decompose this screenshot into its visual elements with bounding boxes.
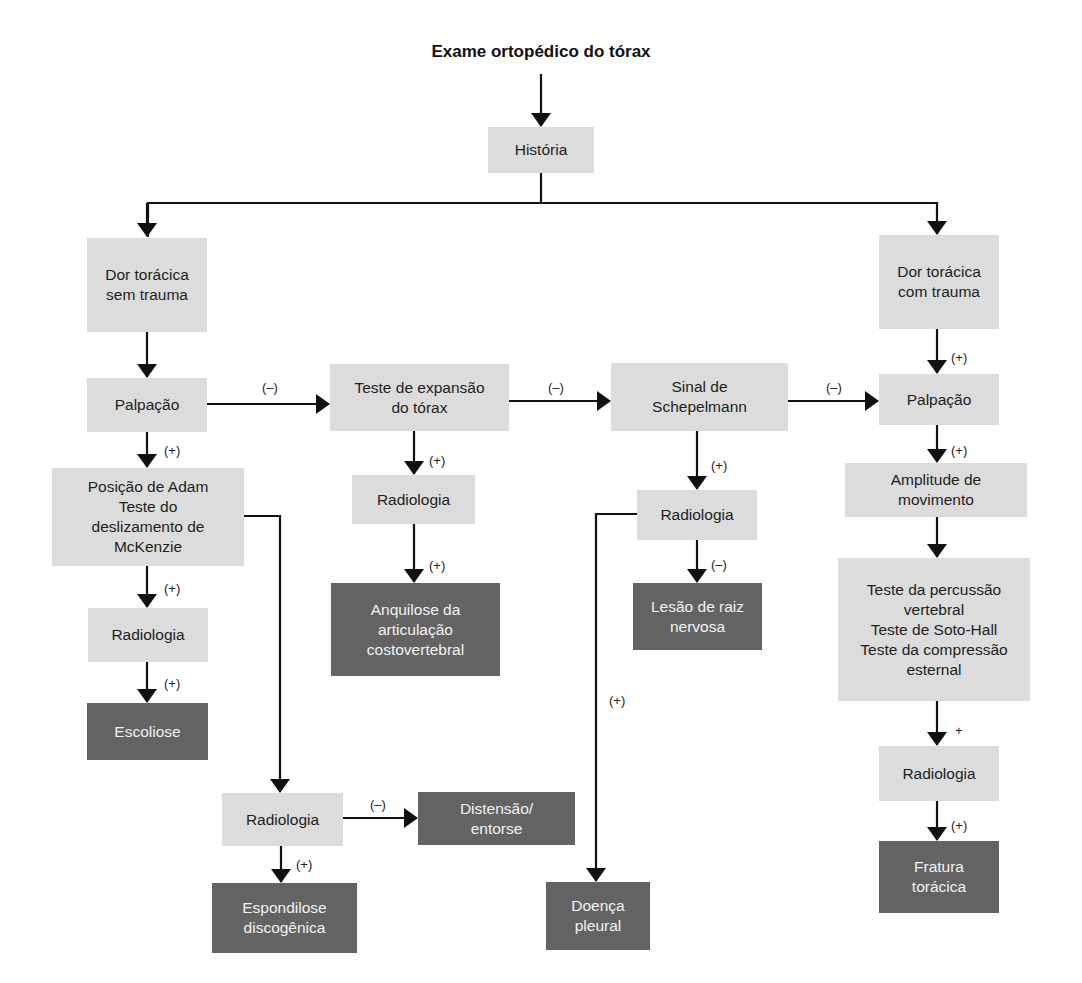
edge-label-rad-fratura: (+) <box>951 818 967 833</box>
node-palpacao-left: Palpação <box>87 378 207 432</box>
node-distensao: Distensão/ entorse <box>418 792 575 845</box>
node-radiologia-right: Radiologia <box>879 746 999 801</box>
edge-label-palp-adam: (+) <box>164 443 180 458</box>
node-radiologia-left1: Radiologia <box>88 608 208 662</box>
node-fratura: Fratura torácica <box>879 841 999 913</box>
node-radiologia-center2: Radiologia <box>637 490 757 540</box>
edge-label-palp-expansao: (–) <box>262 380 278 395</box>
node-dor-sem-trauma: Dor torácica sem trauma <box>87 238 207 332</box>
node-teste-expansao: Teste de expansão do tórax <box>330 364 509 431</box>
node-radiologia-center1: Radiologia <box>352 475 475 524</box>
node-adam-mckenzie: Posição de Adam Teste do deslizamento de… <box>52 468 244 566</box>
edge-label-schep-rad: (+) <box>711 458 727 473</box>
node-schepelmann: Sinal de Schepelmann <box>611 363 788 431</box>
edge-label-palp-amplitude: (+) <box>951 443 967 458</box>
edge-label-schep-palp: (–) <box>826 380 842 395</box>
node-palpacao-right: Palpação <box>879 374 999 425</box>
edge-label-adam-rad: (+) <box>164 581 180 596</box>
edge-label-rad-distensao: (–) <box>370 797 386 812</box>
node-anquilose: Anquilose da articulação costovertebral <box>331 583 500 676</box>
node-escoliose: Escoliose <box>87 703 208 760</box>
node-historia: História <box>488 127 594 173</box>
edge-label-expansao-rad: (+) <box>429 453 445 468</box>
node-amplitude: Amplitude de movimento <box>845 463 1027 517</box>
edge-label-expansao-schep: (–) <box>548 380 564 395</box>
node-testes-percussao: Teste da percussão vertebral Teste de So… <box>838 558 1030 701</box>
node-lesao-raiz: Lesão de raiz nervosa <box>633 583 762 650</box>
node-doenca-pleural: Doença pleural <box>546 882 650 950</box>
edge-label-rad-pleural: (+) <box>609 693 625 708</box>
node-dor-com-trauma: Dor torácica com trauma <box>879 235 999 329</box>
edge-label-rad-anquilose: (+) <box>429 558 445 573</box>
edge-label-trauma-palp: (+) <box>951 350 967 365</box>
edge-label-rad-lesao: (–) <box>711 557 727 572</box>
node-radiologia-left2: Radiologia <box>222 793 343 846</box>
node-espondilose: Espondilose discogênica <box>212 883 357 953</box>
edge-label-testes-rad: + <box>955 723 963 738</box>
edge-label-rad-escoliose: (+) <box>164 676 180 691</box>
edge-label-rad-espondilose: (+) <box>296 857 312 872</box>
